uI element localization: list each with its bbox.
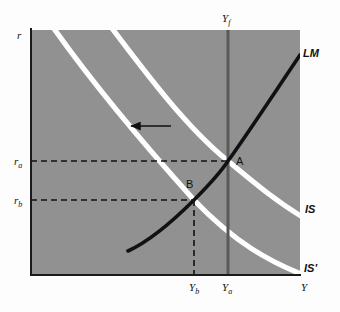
tick-label-rb-sub: b xyxy=(18,200,22,209)
plot-area-background xyxy=(31,30,300,275)
point-label-a: A xyxy=(236,155,244,167)
figure-screenshot: r Y LM IS IS' A B ra rb Yb Ya Yf xyxy=(0,0,340,312)
tick-label-yb-sub: b xyxy=(195,287,199,296)
curve-label-is-prime: IS' xyxy=(304,262,317,274)
tick-label-ya-sub: a xyxy=(228,287,232,296)
is-lm-diagram: r Y LM IS IS' A B ra rb Yb Ya Yf xyxy=(0,0,340,312)
point-label-b: B xyxy=(186,178,193,190)
y-axis-label: r xyxy=(17,29,22,41)
curve-label-is: IS xyxy=(305,203,316,215)
curve-label-lm: LM xyxy=(303,47,320,59)
tick-label-ra-sub: a xyxy=(18,161,22,170)
